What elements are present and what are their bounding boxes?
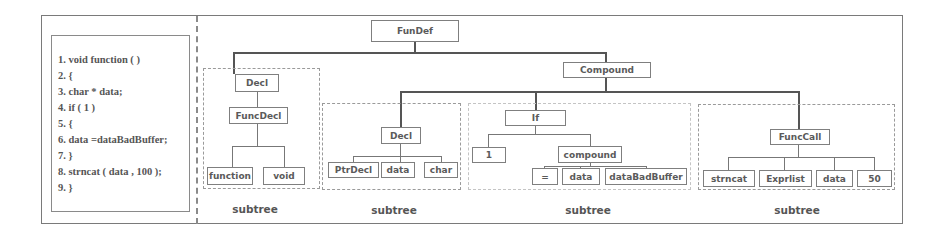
node-decl-1: Decl (235, 74, 279, 92)
edge-to-compound (605, 52, 607, 62)
node-fundef: FunDef (371, 20, 459, 42)
node-assign: = (532, 168, 558, 185)
code-line-3: 3. char * data; (58, 86, 123, 97)
node-data-4: data (816, 170, 853, 187)
edge-fundef-horizontal (233, 52, 607, 54)
node-funcdecl: FuncDecl (229, 107, 288, 124)
node-function: function (207, 167, 253, 185)
code-line-7: 7. } (58, 150, 73, 161)
edge-funccall-horizontal (728, 157, 874, 158)
source-code-panel: 1. void function ( ) 2. { 3. char * data… (51, 35, 190, 212)
edge-to-cond (488, 134, 489, 147)
node-databadbuffer: dataBadBuffer (605, 168, 687, 185)
edge-compound-down (605, 77, 607, 92)
node-funccall: FuncCall (770, 129, 830, 145)
node-void: void (263, 167, 305, 185)
node-inner-compound: compound (558, 146, 622, 163)
edge-compound-horizontal (400, 91, 800, 93)
edge-to-strncat (728, 157, 729, 170)
node-data-2: data (381, 162, 415, 178)
node-cond-1: 1 (472, 147, 506, 163)
node-exprlist: Exprlist (759, 170, 812, 187)
edge-to-void (284, 146, 285, 167)
subtree-4-label: subtree (757, 204, 837, 216)
edge-to-50 (874, 157, 875, 170)
node-data-3: data (562, 168, 600, 185)
edge-decl2-down (400, 144, 401, 156)
node-50: 50 (857, 170, 892, 187)
edge-funccall-down (798, 145, 799, 157)
node-ptrdecl: PtrDecl (328, 162, 379, 178)
edge-to-exprlist (784, 157, 785, 170)
edge-inner-compound-horizontal (544, 166, 646, 167)
node-strncat: strncat (703, 170, 755, 187)
edge-to-inner-compound (590, 134, 591, 146)
edge-to-data-4 (834, 157, 835, 170)
code-line-4: 4. if ( 1 ) (58, 102, 95, 113)
edge-to-function (232, 146, 233, 167)
node-if: If (505, 110, 566, 126)
edge-funcdecl-down (257, 124, 258, 146)
edge-decl2-horizontal (353, 156, 441, 157)
node-compound: Compound (563, 62, 651, 78)
edge-funcdecl-horizontal (232, 146, 284, 147)
code-line-8: 8. strncat ( data , 100 ); (58, 166, 162, 177)
edge-if-horizontal (488, 134, 590, 135)
subtree-1-label: subtree (215, 203, 295, 215)
node-char: char (424, 162, 458, 178)
code-line-1: 1. void function ( ) (58, 54, 140, 65)
edge-decl1-funcdecl (257, 92, 258, 107)
code-line-2: 2. { (58, 70, 73, 81)
subtree-2-label: subtree (354, 204, 434, 216)
node-decl-2: Decl (381, 127, 421, 144)
edge-if-down (535, 126, 536, 134)
panel-divider (196, 16, 198, 224)
subtree-3-label: subtree (548, 204, 628, 216)
code-line-5: 5. { (58, 118, 73, 129)
code-line-9: 9. } (58, 182, 73, 193)
code-line-6: 6. data =dataBadBuffer; (58, 134, 168, 145)
